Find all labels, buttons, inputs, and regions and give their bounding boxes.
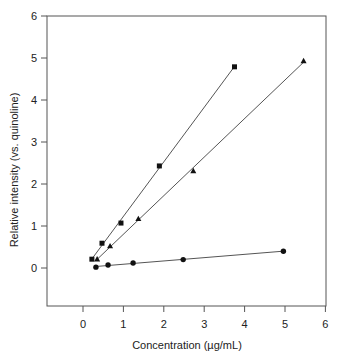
chart: 0123456 0123456 Concentration (µg/mL) Re… <box>0 0 342 364</box>
x-tick-label: 1 <box>120 318 126 330</box>
x-tick-label: 5 <box>282 318 288 330</box>
circle-marker <box>281 249 286 254</box>
y-tick-label: 0 <box>31 262 37 274</box>
y-tick-label: 6 <box>31 10 37 22</box>
x-tick-label: 6 <box>322 318 328 330</box>
y-axis-ticks: 0123456 <box>31 10 47 274</box>
circle-marker <box>105 262 110 267</box>
y-tick-label: 4 <box>31 94 37 106</box>
x-tick-label: 0 <box>80 318 86 330</box>
square-marker <box>99 241 104 246</box>
x-axis-label: Concentration (µg/mL) <box>132 339 242 351</box>
triangle-marker <box>301 58 307 63</box>
y-tick-label: 2 <box>31 178 37 190</box>
square-marker <box>89 257 94 262</box>
y-tick-label: 3 <box>31 136 37 148</box>
series-triangles <box>94 58 306 262</box>
fit-line <box>92 66 235 258</box>
square-marker <box>157 163 162 168</box>
y-tick-label: 5 <box>31 52 37 64</box>
square-marker <box>118 221 123 226</box>
x-axis-ticks: 0123456 <box>80 306 329 330</box>
circle-marker <box>180 257 185 262</box>
square-marker <box>232 64 237 69</box>
data-series <box>89 58 306 270</box>
x-tick-label: 3 <box>201 318 207 330</box>
fit-line <box>96 251 283 266</box>
y-axis-label: Relative intensity (vs. quinoline) <box>8 93 20 248</box>
series-squares <box>89 64 237 261</box>
y-tick-label: 1 <box>31 220 37 232</box>
triangle-marker <box>190 168 196 173</box>
fit-line <box>97 62 303 259</box>
circle-marker <box>93 264 98 269</box>
x-tick-label: 4 <box>242 318 248 330</box>
circle-marker <box>130 260 135 265</box>
series-circles <box>93 249 286 270</box>
plot-frame <box>47 16 326 306</box>
x-tick-label: 2 <box>161 318 167 330</box>
